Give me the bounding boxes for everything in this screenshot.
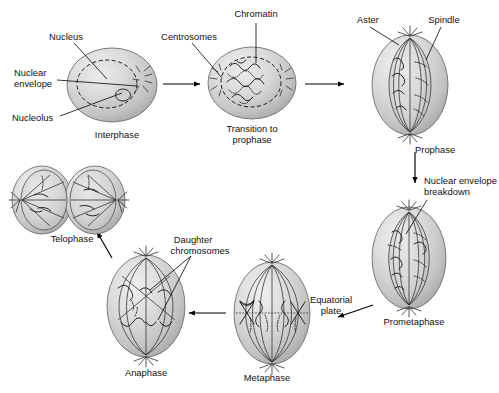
arrow-anaphase-to-telophase xyxy=(97,232,112,258)
cell-metaphase xyxy=(234,253,310,374)
label-nuclear-envelope-line1: Nuclear xyxy=(14,67,46,78)
cell-prometaphase xyxy=(372,200,446,317)
label-metaphase: Metaphase xyxy=(244,372,290,383)
label-neb-line1: Nuclear envelope xyxy=(424,175,497,186)
label-nucleus: Nucleus xyxy=(49,31,83,42)
mitosis-diagram: Nucleus Nuclear envelope Nucleolus Inter… xyxy=(0,0,499,393)
prophase-aster-top xyxy=(398,26,422,36)
diagram-canvas: Nucleus Nuclear envelope Nucleolus Inter… xyxy=(0,0,499,393)
leader-aster xyxy=(370,27,399,45)
cell-anaphase xyxy=(107,246,185,367)
cell-transition-to-prophase xyxy=(208,47,296,119)
anaphase-aster-top xyxy=(134,246,158,256)
label-anaphase: Anaphase xyxy=(125,367,167,378)
label-equatorial-line2: plate xyxy=(321,305,341,316)
label-telophase: Telophase xyxy=(51,233,94,244)
label-centrosomes: Centrosomes xyxy=(161,31,217,42)
prophase-aster-bottom xyxy=(398,134,422,144)
label-interphase: Interphase xyxy=(95,129,139,140)
label-prometaphase: Prometaphase xyxy=(384,316,445,327)
label-chromatin: Chromatin xyxy=(234,8,277,19)
label-spindle: Spindle xyxy=(428,14,459,25)
cell-prophase xyxy=(372,26,448,144)
label-prophase: Prophase xyxy=(415,144,455,155)
label-neb-line2: breakdown xyxy=(424,186,470,197)
label-equatorial-line1: Equatorial xyxy=(310,294,352,305)
label-transition-line1: Transition to xyxy=(226,123,277,134)
label-transition-line2: prophase xyxy=(232,134,271,145)
anaphase-aster-bottom xyxy=(134,357,158,367)
label-nuclear-envelope-line2: envelope xyxy=(14,78,52,89)
label-daughter-line1: Daughter xyxy=(174,234,213,245)
label-daughter-line2: chromosomes xyxy=(171,245,230,256)
arrow-prometaphase-to-metaphase xyxy=(338,305,373,317)
metaphase-aster-top xyxy=(260,253,284,263)
label-aster: Aster xyxy=(357,14,379,25)
cell-interphase xyxy=(67,48,157,122)
cell-telophase xyxy=(9,166,129,234)
label-nucleolus: Nucleolus xyxy=(12,112,53,123)
